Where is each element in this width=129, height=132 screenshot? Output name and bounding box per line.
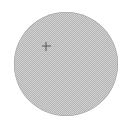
image-canvas <box>0 0 129 132</box>
disc-layer <box>0 0 129 132</box>
textured-disc[interactable] <box>14 12 118 116</box>
